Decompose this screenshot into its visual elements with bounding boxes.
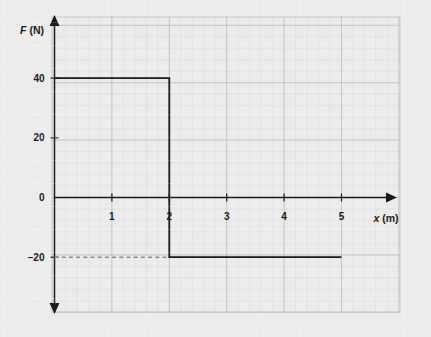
y-tick-label: 20 xyxy=(33,132,45,143)
x-tick-label: 1 xyxy=(109,211,115,222)
x-tick-label: 2 xyxy=(167,211,173,222)
y-tick-label: 40 xyxy=(33,73,45,84)
x-tick-label: 3 xyxy=(224,211,230,222)
x-axis-title: x (m) xyxy=(372,212,398,224)
y-axis-title: F (N) xyxy=(20,24,44,36)
y-tick-label: 0 xyxy=(39,192,45,203)
figure-canvas: 40200–20 12345 F (N) x (m) xyxy=(0,0,431,337)
x-tick-label: 4 xyxy=(281,211,287,222)
x-tick-label: 5 xyxy=(339,211,345,222)
y-tick-label: –20 xyxy=(28,252,45,263)
force-position-chart: 40200–20 12345 F (N) x (m) xyxy=(0,0,431,337)
